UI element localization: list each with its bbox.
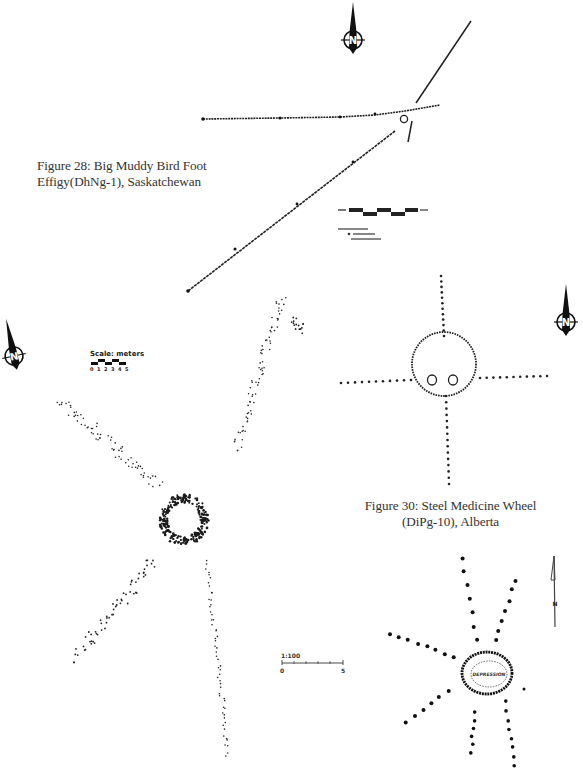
north-arrow-icon: N [551,556,558,627]
figure-29-diagram: N Scale: meters 0 1 2 3 4 5 [0,297,304,757]
figure-30-diagram: N [340,275,578,486]
boulder-line-west [203,105,440,119]
svg-text:Scale: meters: Scale: meters [90,350,144,358]
inner-cairn-left [428,375,437,385]
stone-spokes [57,297,305,757]
boulder-line-short [408,121,412,142]
figure-31-diagram: N DEPRESSION 1:100 0 5 [280,556,558,768]
svg-text:1:100: 1:100 [281,652,300,659]
svg-text:N: N [349,35,357,46]
boulder-line-southwest [188,131,395,291]
figures-canvas: N [0,0,583,777]
figure-28-diagram: N [186,2,471,293]
svg-text:0: 0 [280,667,284,674]
scale-bar: 1:100 0 5 [280,652,345,674]
stone-ring [159,494,210,545]
svg-text:5: 5 [125,366,129,372]
boulder-line-northeast [416,21,471,103]
north-arrow-icon: N [341,2,365,54]
stone-spokes [388,557,526,768]
north-arrow-icon: N [0,316,29,372]
scale-bar: Scale: meters 0 1 2 3 4 5 [90,350,144,372]
svg-text:2: 2 [104,366,108,372]
depression-label: DEPRESSION [473,672,506,677]
svg-text:3: 3 [111,366,115,372]
inner-cairn-right [449,375,458,385]
svg-text:N: N [552,600,557,607]
boulder-cairn [400,115,407,122]
svg-text:5: 5 [341,667,345,674]
svg-text:4: 4 [118,366,122,372]
svg-text:1: 1 [97,366,101,372]
scale-bar-legend [338,208,428,240]
svg-text:N: N [9,350,19,363]
svg-text:0: 0 [90,366,94,372]
stone-spokes [340,275,549,486]
svg-text:N: N [562,317,570,328]
north-arrow-icon: N [554,284,578,336]
stone-circle [412,332,476,396]
